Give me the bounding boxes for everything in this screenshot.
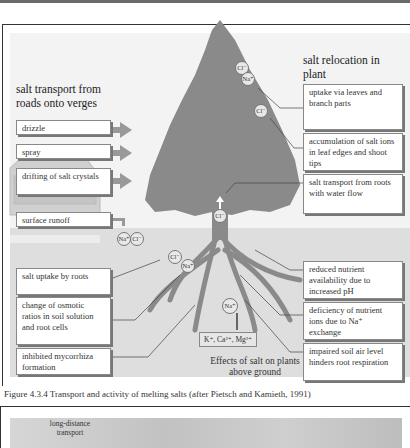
cl-ion-trunk: Cl⁻: [213, 209, 227, 223]
na-ion-crown: Na⁺: [241, 72, 255, 86]
reduced-nutrient-box: reduced nutrient availability due to inc…: [303, 261, 403, 299]
spray-box: spray: [16, 144, 111, 159]
drizzle-box: drizzle: [16, 120, 111, 135]
na-ion-runoff: Na⁺: [117, 232, 131, 246]
cl-ion-crown-mid: Cl⁻: [254, 104, 268, 118]
impaired-air-box: impaired soil air level hinders root res…: [303, 343, 403, 381]
surface-runoff-box: surface runoff: [16, 212, 111, 227]
right-heading: salt relocation in plant: [303, 53, 403, 81]
long-distance-label: long-distance transport: [40, 419, 100, 437]
na-ion-soil: Na⁺: [222, 298, 238, 314]
osmotic-box: change of osmotic ratios in soil solutio…: [16, 297, 111, 345]
nutrient-ions-box: K⁺, Ca²⁺, Mg²⁺: [199, 332, 257, 347]
drifting-box: drifting of salt crystals: [16, 168, 111, 195]
cl-ion-root: Cl⁻: [168, 250, 182, 264]
deficiency-box: deficiency of nutrient ions due to Na⁺ e…: [303, 302, 403, 340]
figure-caption: Figure 4.3.4 Transport and activity of m…: [4, 389, 311, 399]
na-ion-root: Na⁺: [181, 259, 195, 273]
accumulation-box: accumulation of salt ions in leaf edges …: [303, 133, 403, 171]
effects-label: Effects of salt on plants above ground: [200, 356, 310, 378]
left-heading: salt transport from roads onto verges: [16, 82, 126, 110]
salt-uptake-box: salt uptake by roots: [16, 268, 111, 295]
uptake-leaves-box: uptake via leaves and branch parts: [303, 84, 403, 130]
cl-ion-runoff: Cl⁻: [130, 232, 144, 246]
mycorrhiza-box: inhibited mycorrhiza formation: [16, 348, 111, 375]
salt-transport-roots-box: salt transport from roots with water flo…: [303, 174, 403, 214]
